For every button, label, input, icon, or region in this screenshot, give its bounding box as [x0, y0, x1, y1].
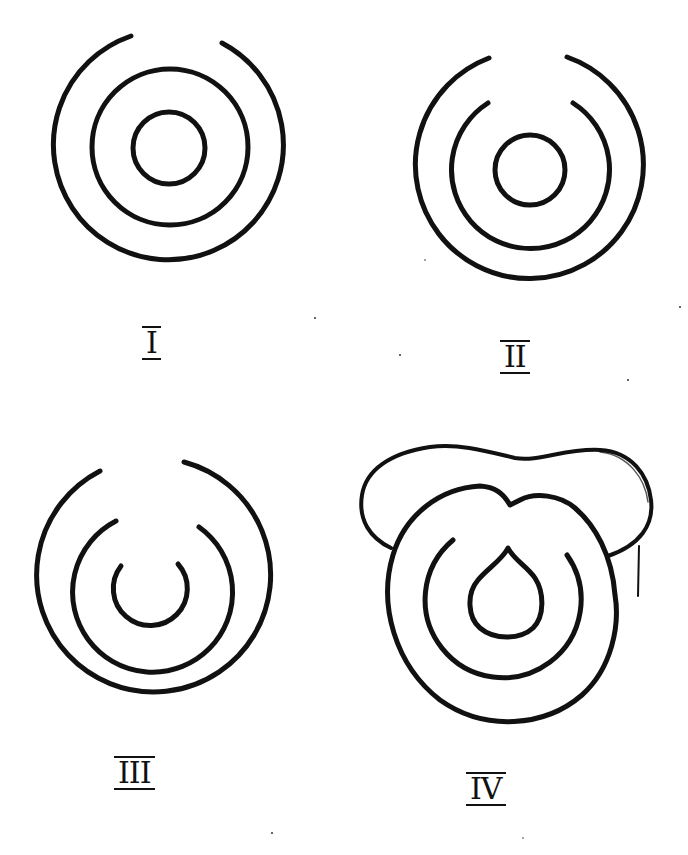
figure-3-inner-ring-open: [113, 564, 187, 626]
figure-2-middle-ring-open: [452, 103, 610, 249]
figure-3-middle-ring-open: [73, 521, 233, 672]
figure-4-cap-outline-echo: [600, 452, 648, 502]
figure-2-label: II: [500, 340, 530, 374]
figure-3-label: III: [114, 756, 155, 790]
figure-4-inner-teardrop: [470, 548, 542, 637]
figure-1-label: I: [142, 326, 161, 360]
paper-specks: [271, 259, 681, 839]
figure-2-inner-ring: [495, 135, 565, 205]
figure-1: [53, 36, 283, 260]
figure-4: [361, 446, 651, 722]
figure-4-stray-mark: [638, 546, 639, 596]
figure-2: [415, 57, 643, 279]
figure-4-label: IV: [466, 772, 506, 806]
figure-4-middle-ring-open: [425, 540, 581, 678]
diagram-canvas: [0, 0, 688, 855]
figure-3: [37, 462, 271, 692]
figure-1-middle-ring: [92, 69, 248, 225]
figure-1-inner-ring: [133, 112, 205, 184]
